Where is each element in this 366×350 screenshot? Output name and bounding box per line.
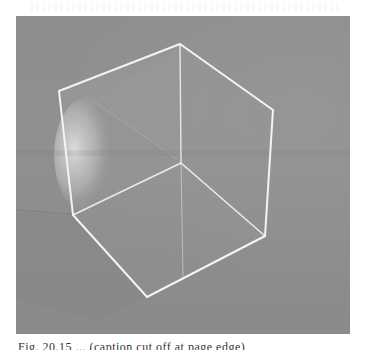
acrylic-cube-illustration <box>16 16 350 334</box>
page-bleed-through <box>30 2 340 12</box>
figure-caption: Fig. 20.15 ... (caption cut off at page … <box>18 340 358 350</box>
figure-photograph <box>16 16 350 334</box>
